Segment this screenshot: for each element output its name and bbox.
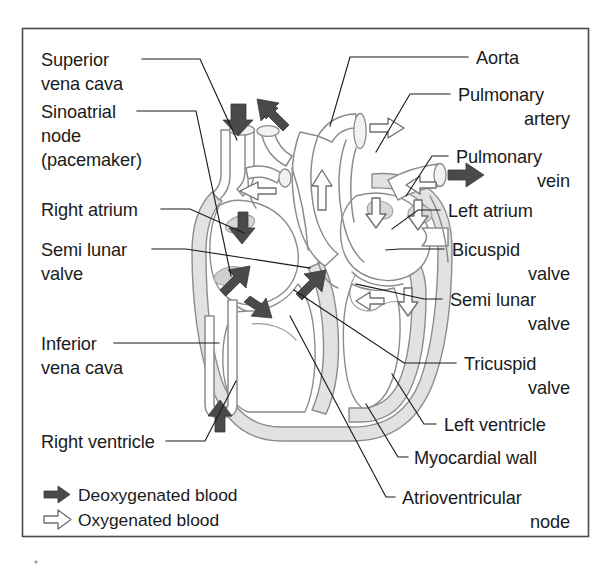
aorta-opening-rim xyxy=(354,114,366,149)
label-atrioventricular-node-line1: Atrioventricular xyxy=(402,488,522,508)
label-tricuspid-valve-line2: valve xyxy=(528,378,570,398)
label-tricuspid-valve-line1: Tricuspid xyxy=(464,354,536,374)
label-pulmonary-artery-line2: artery xyxy=(524,109,571,129)
label-sinoatrial-node-line2: node xyxy=(41,126,81,146)
legend-deoxygenated-label: Deoxygenated blood xyxy=(78,485,238,505)
label-bicuspid-valve-line2: valve xyxy=(528,264,570,284)
label-semi-lunar-valve-left-line2: valve xyxy=(41,264,83,284)
label-left-atrium: Left atrium xyxy=(448,201,533,221)
label-superior-vena-cava-line2: vena cava xyxy=(41,74,124,94)
label-semi-lunar-valve-right-line2: valve xyxy=(528,314,570,334)
label-right-atrium: Right atrium xyxy=(41,200,138,220)
heart-diagram-figure: Superior vena cava Sinoatrial node (pace… xyxy=(0,0,611,574)
label-myocardial-wall: Myocardial wall xyxy=(414,448,537,468)
label-left-ventricle: Left ventricle xyxy=(444,415,546,435)
legend-oxygenated-label: Oxygenated blood xyxy=(78,510,219,530)
label-superior-vena-cava-line1: Superior xyxy=(41,50,109,70)
label-right-ventricle: Right ventricle xyxy=(41,432,155,452)
label-pulmonary-vein-line2: vein xyxy=(537,171,570,191)
label-semi-lunar-valve-left-line1: Semi lunar xyxy=(41,240,127,260)
label-sinoatrial-node-line3: (pacemaker) xyxy=(41,150,142,170)
pulmonary-artery-rim xyxy=(257,126,279,137)
label-pulmonary-vein-line1: Pulmonary xyxy=(456,147,543,167)
label-bicuspid-valve-line1: Bicuspid xyxy=(452,240,520,260)
label-inferior-vena-cava-line2: vena cava xyxy=(41,358,124,378)
label-aorta: Aorta xyxy=(476,48,520,68)
label-inferior-vena-cava-line1: Inferior xyxy=(41,334,97,354)
print-speck xyxy=(34,560,37,563)
label-pulmonary-artery-line1: Pulmonary xyxy=(458,85,545,105)
label-atrioventricular-node-line2: node xyxy=(530,512,570,532)
label-sinoatrial-node-line1: Sinoatrial xyxy=(41,102,116,122)
pa-branch-rim xyxy=(279,169,291,187)
label-semi-lunar-valve-right-line1: Semi lunar xyxy=(450,290,536,310)
